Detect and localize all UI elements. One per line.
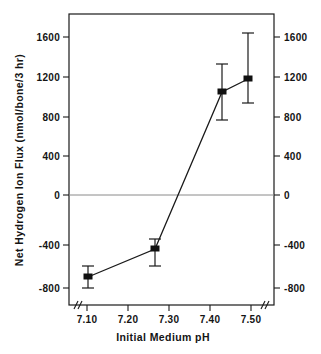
- data-marker: [84, 274, 92, 279]
- y-ticklabel: 0: [54, 190, 60, 201]
- y-ticklabel: -800: [39, 283, 60, 294]
- x-ticklabel: 7.20: [118, 314, 139, 325]
- x-ticklabel: 7.10: [77, 314, 98, 325]
- y-axis-ticks-right: [274, 37, 280, 288]
- y-axis-ticks-left: [63, 37, 69, 288]
- data-series-line: [88, 79, 248, 277]
- x-axis-ticklabels: 7.10 7.20 7.30 7.40 7.50: [77, 314, 262, 325]
- y-ticklabel-right: 1200: [284, 72, 308, 83]
- y-axis-ticklabels-left: 1600 1200 800 400 0 -400 -800: [37, 32, 61, 294]
- y-ticklabel: 400: [42, 151, 60, 162]
- y-ticklabel-right: 400: [284, 151, 302, 162]
- x-ticklabel: 7.30: [159, 314, 180, 325]
- datapoint-group-1: [82, 266, 94, 288]
- x-ticklabel: 7.40: [200, 314, 221, 325]
- data-marker: [218, 89, 226, 94]
- y-ticklabel-right: 1600: [284, 32, 308, 43]
- y-axis-title: Net Hydrogen Ion Flux (nmol/bone/3 hr): [13, 54, 25, 266]
- y-ticklabel: 800: [42, 112, 60, 123]
- y-ticklabel-right: 0: [284, 190, 290, 201]
- datapoint-group-3: [216, 64, 228, 120]
- datapoint-group-2: [149, 239, 161, 266]
- y-ticklabel: 1600: [37, 32, 61, 43]
- x-axis-ticks: [87, 305, 251, 311]
- y-ticklabel-right: -400: [284, 240, 305, 251]
- data-marker: [151, 246, 159, 251]
- y-axis-ticklabels-right: 1600 1200 800 400 0 -400 -800: [284, 32, 308, 294]
- y-ticklabel: -400: [39, 240, 60, 251]
- plot-frame: [69, 14, 274, 305]
- datapoint-group-4: [242, 33, 254, 103]
- y-ticklabel-right: 800: [284, 112, 302, 123]
- figure-container: 1600 1200 800 400 0 -400 -800 1600 1200 …: [0, 0, 321, 354]
- x-axis-title: Initial Medium pH: [116, 331, 210, 343]
- chart-canvas: 1600 1200 800 400 0 -400 -800 1600 1200 …: [0, 0, 321, 354]
- data-marker: [244, 76, 252, 81]
- x-ticklabel: 7.50: [241, 314, 262, 325]
- y-ticklabel-right: -800: [284, 283, 305, 294]
- y-ticklabel: 1200: [37, 72, 61, 83]
